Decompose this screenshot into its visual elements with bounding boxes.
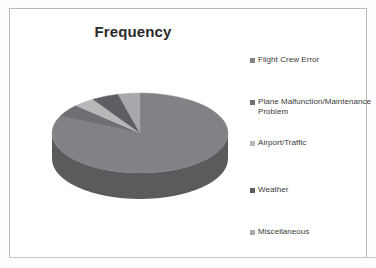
legend-swatch-icon: [250, 230, 255, 235]
plot-area: [40, 77, 240, 217]
legend-item-weather[interactable]: Weather: [250, 185, 376, 195]
legend-swatch-icon: [250, 100, 255, 105]
legend-swatch-icon: [250, 141, 255, 146]
legend-label: Flight Crew Error: [258, 55, 319, 65]
legend-label: Miscellaneous: [258, 227, 309, 237]
chart-legend: Flight Crew Error Plane Malfunction/Main…: [250, 47, 376, 243]
chart-title: Frequency: [10, 23, 256, 40]
pie-chart-svg: [40, 77, 240, 217]
pie-top-face: [52, 93, 228, 173]
scan-artifact-rule: [9, 257, 376, 258]
legend-label: Plane Malfunction/Maintenance Problem: [258, 97, 376, 116]
legend-swatch-icon: [250, 188, 255, 193]
legend-item-plane-malfunction[interactable]: Plane Malfunction/Maintenance Problem: [250, 97, 376, 116]
legend-item-airport-traffic[interactable]: Airport/Traffic: [250, 138, 376, 148]
legend-item-flight-crew-error[interactable]: Flight Crew Error: [250, 55, 376, 65]
pie-chart: [40, 77, 240, 217]
legend-label: Airport/Traffic: [258, 138, 306, 148]
legend-swatch-icon: [250, 58, 255, 63]
legend-label: Weather: [258, 185, 288, 195]
legend-item-miscellaneous[interactable]: Miscellaneous: [250, 227, 376, 237]
chart-frame: Frequency Flight Crew Error Plane: [9, 8, 367, 258]
